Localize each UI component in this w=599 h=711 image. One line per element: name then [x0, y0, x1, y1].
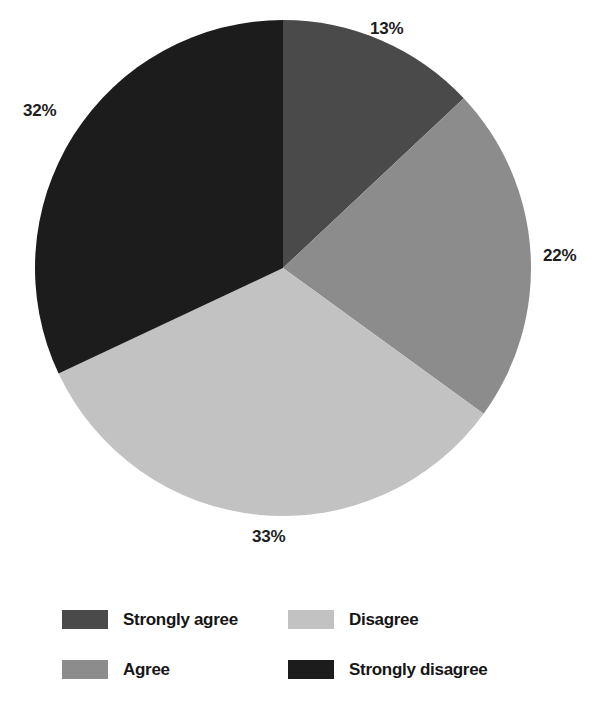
legend-label-strongly-disagree: Strongly disagree	[349, 660, 488, 679]
legend-swatch-icon	[288, 610, 334, 629]
legend-swatch-icon	[288, 660, 334, 679]
legend-swatch-icon	[62, 610, 108, 629]
legend-label-disagree: Disagree	[349, 610, 418, 629]
legend-label-strongly-agree: Strongly agree	[123, 610, 238, 629]
pie-slice-group	[35, 20, 531, 516]
pie-data-label-strongly-agree: 13%	[370, 19, 403, 39]
legend-label-agree: Agree	[123, 660, 170, 679]
pie-plot-area: 13% 22% 33% 32%	[0, 0, 599, 545]
chart-legend: Strongly agree Disagree Agree Strongly d…	[0, 595, 599, 711]
legend-item-disagree: Disagree	[288, 606, 418, 632]
pie-data-label-strongly-disagree: 32%	[23, 101, 56, 121]
legend-item-agree: Agree	[62, 656, 170, 682]
pie-svg	[0, 0, 599, 545]
legend-item-strongly-disagree: Strongly disagree	[288, 656, 488, 682]
pie-chart-figure: 13% 22% 33% 32% Strongly agree Disagree …	[0, 0, 599, 711]
legend-item-strongly-agree: Strongly agree	[62, 606, 238, 632]
pie-data-label-disagree: 33%	[252, 527, 285, 547]
pie-data-label-agree: 22%	[543, 246, 576, 266]
legend-swatch-icon	[62, 660, 108, 679]
